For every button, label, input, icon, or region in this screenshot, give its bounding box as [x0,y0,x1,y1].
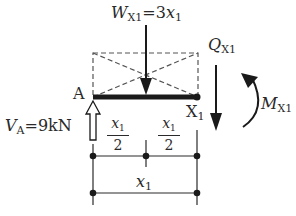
section-point-x1 [194,94,201,101]
shear-force-arrow [210,65,222,131]
reaction-label: VA=9kN [5,118,72,136]
dimension-half-right: x1 2 [158,116,180,152]
beam-free-body-diagram: WX1=3x1 QX1 MX1 A X1 VA=9kN x1 2 x1 2 x1 [0,0,296,216]
dimension-half-left: x1 2 [107,116,129,152]
moment-arc-arrow [241,73,258,127]
reaction-arrow [86,101,100,140]
shear-label: QX1 [208,37,236,55]
section-label: X1 [186,104,204,122]
load-label: WX1=3x1 [111,5,182,23]
moment-label: MX1 [261,96,292,114]
support-label: A [73,86,85,102]
dimension-total: x1 [136,174,152,192]
resultant-load-arrow [140,25,152,95]
